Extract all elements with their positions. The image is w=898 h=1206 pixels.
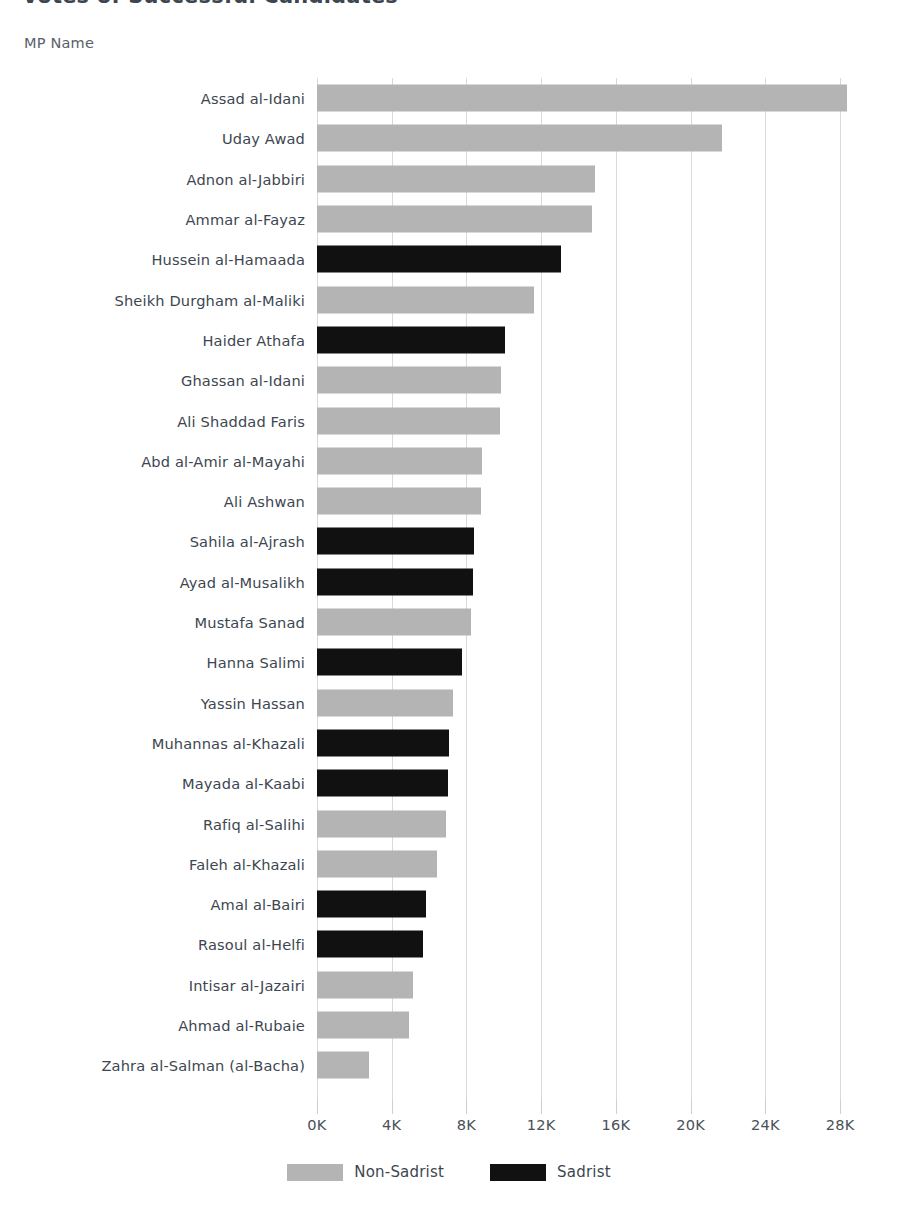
bar-row-label: Abd al-Amir al-Mayahi [141,452,305,469]
x-axis-tick-label: 12K [527,1116,556,1133]
bar[interactable] [317,1052,369,1079]
legend-label: Sadrist [557,1163,611,1181]
bar[interactable] [317,891,426,918]
legend-item[interactable]: Non-Sadrist [287,1163,444,1181]
x-axis-tick-label: 16K [602,1116,631,1133]
bar[interactable] [317,850,437,877]
x-axis-tick-label: 4K [382,1116,401,1133]
bar-row: Sahila al-Ajrash [317,521,855,561]
bar-row: Ali Ashwan [317,481,855,521]
bar-row-label: Hanna Salimi [207,654,305,671]
x-axis-tick-label: 24K [751,1116,780,1133]
bar-row: Haider Athafa [317,320,855,360]
bar-row: Ahmad al-Rubaie [317,1005,855,1045]
bar-row: Zahra al-Salman (al-Bacha) [317,1045,855,1085]
bar-row: Ghassan al-Idani [317,360,855,400]
bar[interactable] [317,326,505,353]
bar-row-label: Mayada al-Kaabi [182,775,305,792]
bar[interactable] [317,971,413,998]
bar-row-label: Ali Ashwan [224,493,305,510]
bar-row: Yassin Hassan [317,683,855,723]
bar-row: Hanna Salimi [317,642,855,682]
x-axis-tick-label: 20K [676,1116,705,1133]
bar-row: Assad al-Idani [317,78,855,118]
bar-row: Mayada al-Kaabi [317,763,855,803]
bar-row-label: Yassin Hassan [201,694,305,711]
bar-row-label: Rafiq al-Salihi [203,815,305,832]
bar-row-label: Uday Awad [222,130,305,147]
bar-row: Intisar al-Jazairi [317,965,855,1005]
bar[interactable] [317,488,481,515]
bar-row-label: Haider Athafa [202,331,305,348]
bar[interactable] [317,729,449,756]
bar[interactable] [317,165,595,192]
bar-row-label: Ghassan al-Idani [181,372,305,389]
bar-row-label: Sahila al-Ajrash [190,533,305,550]
x-axis-tick [840,1100,841,1114]
x-axis-tick-label: 8K [457,1116,476,1133]
bar-row-label: Rasoul al-Helfi [198,936,305,953]
bar[interactable] [317,528,474,555]
bar[interactable] [317,206,592,233]
bar[interactable] [317,286,534,313]
bar-row: Sheikh Durgham al-Maliki [317,280,855,320]
bar-row: Rafiq al-Salihi [317,803,855,843]
bar[interactable] [317,125,722,152]
bar-row-label: Ammar al-Fayaz [185,211,305,228]
bar[interactable] [317,770,448,797]
bar-row: Amal al-Bairi [317,884,855,924]
legend-label: Non-Sadrist [354,1163,444,1181]
bar-chart: Votes of Successful Candidates MP Name A… [0,0,898,1206]
bar[interactable] [317,609,471,636]
plot-area: Assad al-IdaniUday AwadAdnon al-JabbiriA… [317,78,855,1100]
bar-row: Hussein al-Hamaada [317,239,855,279]
bar-row-label: Adnon al-Jabbiri [187,170,305,187]
bar-row-label: Assad al-Idani [201,90,305,107]
x-axis-tick [392,1100,393,1114]
y-axis-caption: MP Name [24,35,94,51]
bar-row: Ayad al-Musalikh [317,562,855,602]
bar-row-label: Ayad al-Musalikh [180,573,305,590]
bar-row: Abd al-Amir al-Mayahi [317,441,855,481]
bar-row: Ali Shaddad Faris [317,400,855,440]
bar-row-label: Intisar al-Jazairi [189,976,305,993]
bar[interactable] [317,407,500,434]
bar-row: Faleh al-Khazali [317,844,855,884]
legend: Non-SadristSadrist [0,1163,898,1181]
x-axis-tick [466,1100,467,1114]
legend-swatch-icon [287,1164,343,1181]
bar[interactable] [317,568,473,595]
bar[interactable] [317,367,501,394]
x-axis-tick [765,1100,766,1114]
bar-row-label: Ali Shaddad Faris [177,412,305,429]
bar-row-label: Hussein al-Hamaada [151,251,305,268]
bar-row: Muhannas al-Khazali [317,723,855,763]
bar[interactable] [317,246,561,273]
bar[interactable] [317,85,847,112]
bar-row: Rasoul al-Helfi [317,924,855,964]
bar-row-label: Zahra al-Salman (al-Bacha) [101,1057,305,1074]
x-axis: 0K4K8K12K16K20K24K28K [317,1100,855,1144]
bar-row-label: Muhannas al-Khazali [152,734,305,751]
bar-row: Ammar al-Fayaz [317,199,855,239]
legend-item[interactable]: Sadrist [490,1163,611,1181]
x-axis-tick-label: 28K [826,1116,855,1133]
x-axis-tick-label: 0K [307,1116,326,1133]
bar-row: Adnon al-Jabbiri [317,159,855,199]
bar-row-label: Mustafa Sanad [195,614,305,631]
bar-row: Mustafa Sanad [317,602,855,642]
x-axis-tick [541,1100,542,1114]
x-axis-tick [691,1100,692,1114]
bar-rows: Assad al-IdaniUday AwadAdnon al-JabbiriA… [317,78,855,1100]
bar[interactable] [317,447,482,474]
bar-row-label: Amal al-Bairi [210,896,305,913]
x-axis-tick [616,1100,617,1114]
bar[interactable] [317,810,446,837]
bar[interactable] [317,931,423,958]
bar[interactable] [317,649,462,676]
bar[interactable] [317,1012,409,1039]
bar-row: Uday Awad [317,118,855,158]
bar-row-label: Sheikh Durgham al-Maliki [115,291,305,308]
bar[interactable] [317,689,453,716]
bar-row-label: Ahmad al-Rubaie [178,1017,305,1034]
